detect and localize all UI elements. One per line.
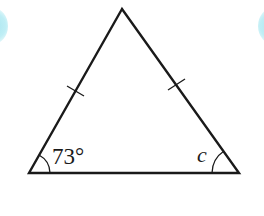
angle-arc-bottom-left (39, 155, 50, 173)
angle-label-73-degrees: 73° (52, 145, 84, 168)
angle-label-c: c (197, 144, 207, 166)
triangle-figure (0, 0, 264, 216)
equal-side-tick-left (67, 86, 84, 96)
diagram-canvas: 73° c (0, 0, 264, 216)
angle-arc-bottom-right (212, 151, 224, 173)
equal-side-tick-right (168, 79, 185, 90)
